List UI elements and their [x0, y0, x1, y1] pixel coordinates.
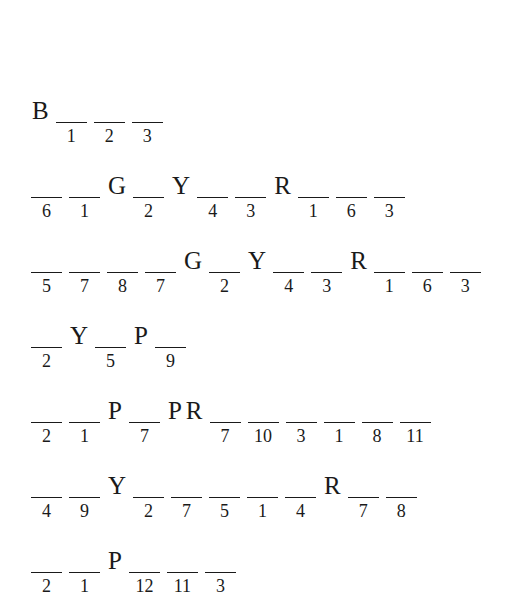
answer-blank: [69, 168, 100, 198]
blank-cell: 8: [362, 396, 393, 446]
puzzle-line-1: B 1 2 3: [31, 96, 488, 171]
answer-blank: [31, 393, 62, 423]
blank-cell: 7: [69, 246, 100, 296]
cipher-number: 11: [167, 576, 198, 593]
cipher-number: 5: [31, 276, 62, 296]
blank-cell: 2: [31, 546, 62, 593]
blank-cell: 2: [209, 246, 240, 296]
cipher-number: 3: [235, 201, 266, 221]
blank-cell: 1: [69, 171, 100, 221]
cipher-number: 8: [107, 276, 138, 296]
cipher-number: 12: [129, 576, 160, 593]
answer-blank: [235, 168, 266, 198]
cipher-number: 9: [155, 351, 186, 371]
blank-cell: 1: [69, 546, 100, 593]
answer-blank: [247, 468, 278, 498]
given-letter: P: [107, 546, 123, 576]
cipher-number: 2: [31, 426, 62, 446]
answer-blank: [298, 168, 329, 198]
cipher-number: 6: [31, 201, 62, 221]
blank-cell: 7: [210, 396, 241, 446]
cipher-number: 1: [69, 426, 100, 446]
blank-cell: 2: [94, 96, 125, 146]
given-letter: R: [273, 171, 292, 201]
given-letter: Y: [171, 171, 191, 201]
answer-blank: [374, 168, 405, 198]
blank-cell: 3: [132, 96, 163, 146]
answer-blank: [31, 543, 62, 573]
puzzle-line-6: 4 9 Y 2 7 5 1 4 R 7 8: [31, 471, 488, 546]
blank-cell: 7: [171, 471, 202, 521]
cipher-number: 7: [348, 501, 379, 521]
puzzle-line-2: 6 1 G 2 Y 4 3 R 1 6 3: [31, 171, 488, 246]
answer-blank: [386, 468, 417, 498]
answer-blank: [133, 468, 164, 498]
cipher-number: 7: [145, 276, 176, 296]
puzzle-line-3: 5 7 8 7 G 2 Y 4 3 R 1 6 3: [31, 246, 488, 321]
puzzle-line-4: 2 Y 5 P 9: [31, 321, 488, 396]
blank-cell: 11: [167, 546, 198, 593]
answer-blank: [129, 543, 160, 573]
cipher-number: 6: [336, 201, 367, 221]
blank-cell: 5: [31, 246, 62, 296]
blank-cell: 9: [69, 471, 100, 521]
cipher-number: 2: [133, 201, 164, 221]
answer-blank: [133, 168, 164, 198]
blank-cell: 9: [155, 321, 186, 371]
given-letter: R: [323, 471, 342, 501]
cipher-number: 7: [210, 426, 241, 446]
cipher-number: 8: [386, 501, 417, 521]
blank-cell: 4: [285, 471, 316, 521]
answer-blank: [94, 93, 125, 123]
cipher-number: 8: [362, 426, 393, 446]
answer-blank: [69, 393, 100, 423]
cipher-number: 1: [324, 426, 355, 446]
given-letter: P: [133, 321, 149, 351]
blank-cell: 1: [374, 246, 405, 296]
answer-blank: [286, 393, 317, 423]
cipher-number: 7: [129, 426, 160, 446]
answer-blank: [129, 393, 160, 423]
answer-blank: [31, 243, 62, 273]
answer-blank: [209, 243, 240, 273]
given-letter: P: [167, 396, 183, 426]
answer-blank: [31, 168, 62, 198]
puzzle-line-5: 2 1 P 7 P R 7 10 3 1 8 11: [31, 396, 488, 471]
answer-blank: [171, 468, 202, 498]
answer-blank: [324, 393, 355, 423]
answer-blank: [145, 243, 176, 273]
cipher-number: 1: [69, 201, 100, 221]
cipher-number: 1: [69, 576, 100, 593]
given-letter: B: [31, 96, 50, 126]
answer-blank: [336, 168, 367, 198]
cipher-number: 6: [412, 276, 443, 296]
answer-blank: [31, 318, 62, 348]
blank-cell: 3: [205, 546, 236, 593]
answer-blank: [348, 468, 379, 498]
answer-blank: [155, 318, 186, 348]
answer-blank: [197, 168, 228, 198]
cipher-number: 2: [133, 501, 164, 521]
blank-cell: 8: [107, 246, 138, 296]
cipher-number: 1: [374, 276, 405, 296]
answer-blank: [450, 243, 481, 273]
given-letter: P: [107, 396, 123, 426]
given-letter: R: [349, 246, 368, 276]
blank-cell: 2: [133, 471, 164, 521]
answer-blank: [69, 543, 100, 573]
cipher-number: 4: [31, 501, 62, 521]
blank-cell: 3: [286, 396, 317, 446]
cipher-number: 2: [31, 351, 62, 371]
blank-cell: 1: [69, 396, 100, 446]
blank-cell: 11: [400, 396, 431, 446]
cipher-puzzle: B 1 2 3 6 1 G 2 Y 4 3 R 1 6 3 5 7 8 7 G …: [31, 96, 488, 593]
given-letter: G: [107, 171, 127, 201]
blank-cell: 3: [374, 171, 405, 221]
cipher-number: 2: [31, 576, 62, 593]
given-letter: G: [183, 246, 203, 276]
cipher-number: 2: [209, 276, 240, 296]
answer-blank: [285, 468, 316, 498]
blank-cell: 7: [348, 471, 379, 521]
cipher-number: 5: [209, 501, 240, 521]
blank-cell: 6: [31, 171, 62, 221]
